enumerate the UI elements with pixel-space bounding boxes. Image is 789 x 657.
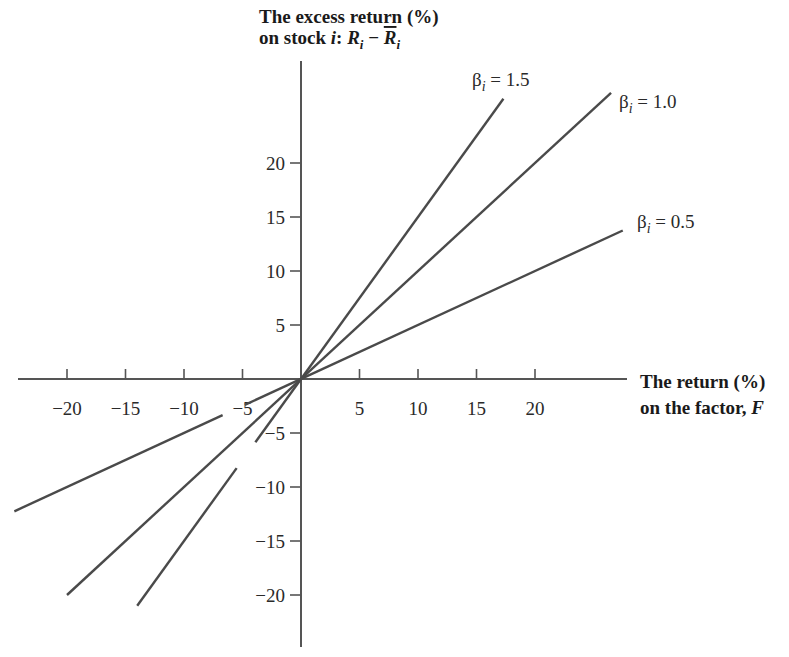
y-tick-label: −15 — [255, 531, 285, 552]
x-tick-label: −10 — [169, 398, 199, 419]
factor-beta-chart: −20−15−10−55101520 2015105−5−10−15−20 Th… — [0, 0, 789, 657]
x-axis-title: The return (%) — [640, 371, 765, 393]
y-tick-label: 10 — [266, 261, 285, 282]
y-tick-label: 20 — [266, 153, 285, 174]
series-label-beta-0-5: βi = 0.5 — [637, 211, 695, 236]
series-label-beta-1-5: βi = 1.5 — [472, 69, 530, 94]
series-line — [137, 468, 236, 606]
y-tick-label: 5 — [276, 315, 286, 336]
x-tick-label: 5 — [355, 398, 365, 419]
x-tick-label: −5 — [232, 398, 252, 419]
x-tick-label: −20 — [52, 398, 82, 419]
x-axis-ticks: −20−15−10−55101520 — [52, 369, 544, 419]
x-tick-label: 20 — [526, 398, 545, 419]
x-tick-label: 10 — [409, 398, 428, 419]
y-tick-label: 15 — [266, 207, 285, 228]
x-tick-label: −15 — [111, 398, 141, 419]
series-label-beta-1-0: βi = 1.0 — [619, 91, 677, 116]
y-tick-label: −20 — [255, 585, 285, 606]
x-axis-title-line2: on the factor, F — [640, 397, 764, 418]
y-axis-title: The excess return (%) — [259, 6, 439, 28]
y-tick-label: −10 — [255, 477, 285, 498]
series-lines — [14, 93, 622, 606]
series-line — [67, 93, 611, 595]
x-tick-label: 15 — [467, 398, 486, 419]
series-line — [14, 415, 222, 511]
y-axis-title-line2: on stock i: Ri − Ri — [259, 27, 400, 52]
